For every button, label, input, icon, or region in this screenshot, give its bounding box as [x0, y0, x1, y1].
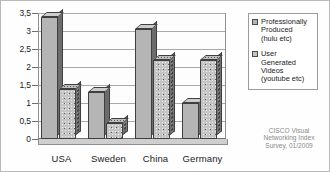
y-axis-tick-label: 2: [26, 63, 31, 71]
bar-side: [217, 52, 222, 135]
y-axis-tick-label: 2,5: [19, 45, 31, 53]
x-axis-labels: USASwedenChinaGermany: [38, 153, 226, 167]
bar-group: [182, 13, 229, 139]
plot-floor: [38, 139, 228, 145]
bar-group: [135, 13, 182, 139]
bar-front: [153, 60, 170, 139]
plot-area: 00,511,522,533,5: [32, 13, 226, 148]
y-axis-tick-label: 3,5: [19, 9, 31, 17]
y-axis-tick-label: 1,5: [19, 81, 31, 89]
bar-front: [200, 60, 217, 139]
legend-item: User Generated Videos (youtube etc): [252, 50, 314, 84]
x-axis-category-label: Germany: [179, 153, 226, 164]
bar: [41, 17, 58, 139]
bar-front: [182, 103, 199, 139]
x-axis-category-label: China: [132, 153, 179, 164]
legend-label-professionally-produced: Professionally Produced (hulu etc): [261, 18, 307, 43]
bar: [88, 92, 105, 139]
legend-swatch-user-generated: [252, 51, 258, 57]
bar-front: [88, 92, 105, 139]
bar-side: [76, 81, 81, 135]
legend-label-user-generated: User Generated Videos (youtube etc): [261, 50, 304, 84]
source-attribution: CISCO Visual Networking Index Survey, 01…: [251, 127, 327, 149]
bar: [153, 60, 170, 139]
bar: [135, 29, 152, 139]
bar: [59, 89, 76, 139]
y-axis-labels: 00,511,522,533,5: [3, 13, 31, 139]
bar: [106, 123, 123, 139]
bar-front: [59, 89, 76, 139]
bar-side: [170, 52, 175, 135]
chart-frame: 00,511,522,533,5 USASwedenChinaGermany P…: [0, 0, 330, 172]
chart-legend: Professionally Produced (hulu etc) User …: [248, 13, 318, 90]
y-axis-tick-label: 0,5: [19, 117, 31, 125]
bar-front: [135, 29, 152, 139]
bar: [182, 103, 199, 139]
bar-group: [88, 13, 135, 139]
bar-group: [41, 13, 88, 139]
bar-front: [41, 17, 58, 139]
legend-item: Professionally Produced (hulu etc): [252, 18, 314, 43]
x-axis-category-label: USA: [38, 153, 85, 164]
bar: [200, 60, 217, 139]
y-axis-tick-label: 0: [26, 135, 31, 143]
y-axis-tick-label: 1: [26, 99, 31, 107]
x-axis-category-label: Sweden: [85, 153, 132, 164]
y-axis-tick-label: 3: [26, 27, 31, 35]
legend-swatch-professionally-produced: [252, 19, 258, 25]
bar-layer: [38, 13, 226, 139]
bar-front: [106, 123, 123, 139]
